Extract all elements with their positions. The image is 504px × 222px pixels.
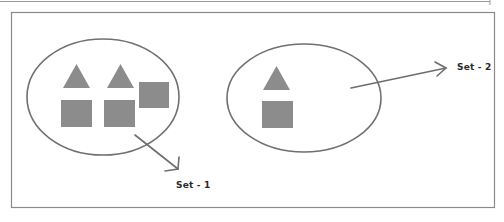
set-1-square-1 bbox=[61, 100, 92, 127]
set-1-square-2 bbox=[104, 100, 135, 127]
set-1-label: Set - 1 bbox=[176, 180, 211, 190]
set-1-triangle-1 bbox=[63, 64, 90, 88]
set-1-arrow bbox=[135, 135, 179, 171]
set-2-triangle bbox=[263, 66, 290, 90]
set-2-square bbox=[262, 101, 293, 128]
set-1-triangle-2 bbox=[107, 64, 134, 88]
set-2-ellipse bbox=[227, 44, 381, 152]
set-diagram-canvas bbox=[0, 0, 504, 222]
set-1-square-3 bbox=[139, 82, 169, 108]
set-2-label: Set - 2 bbox=[457, 62, 492, 72]
